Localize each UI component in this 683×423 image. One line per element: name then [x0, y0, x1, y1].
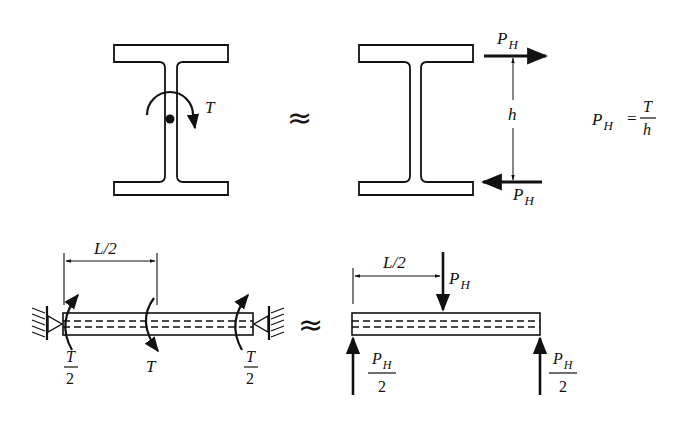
equation-lhs: PH: [591, 110, 613, 133]
left-reaction-denominator: 2: [378, 378, 386, 395]
left-reaction-numerator: PH: [371, 350, 393, 372]
mid-torque-label: T: [146, 357, 157, 376]
right-reaction-denominator: 2: [559, 378, 567, 395]
i-beam-section-with-force-couple: PH PH h: [359, 29, 546, 208]
right-torque-arrow-icon: [235, 295, 248, 350]
left-torque-denominator: 2: [66, 370, 74, 387]
point-load-label: PH: [448, 269, 470, 292]
bottom-force-label: PH: [512, 185, 534, 208]
approx-symbol-top: ≈: [287, 100, 312, 135]
mid-torque-arrow-icon: [146, 298, 158, 351]
span-label: L/2: [382, 253, 406, 272]
equation-numerator: T: [643, 98, 653, 115]
force-equation: PH = T h: [591, 98, 656, 138]
right-fixed-support-icon: [254, 306, 284, 340]
right-torque-denominator: 2: [246, 370, 254, 387]
beam-body: [63, 313, 253, 335]
torsion-equivalence-diagram: T ≈ PH PH h PH = T h: [0, 0, 683, 423]
span-label: L/2: [93, 239, 117, 258]
left-fixed-support-icon: [32, 306, 62, 340]
left-torque-arrow-icon: [65, 295, 78, 350]
right-reaction-numerator: PH: [552, 350, 574, 372]
simply-supported-beam-with-load: L/2 PH PH 2 PH 2: [352, 252, 577, 395]
equation-denominator: h: [643, 121, 651, 138]
left-torque-numerator: T: [66, 348, 76, 365]
right-torque-numerator: T: [246, 348, 256, 365]
i-beam-section-with-torque: T: [114, 45, 228, 195]
equation-equals: =: [627, 109, 637, 128]
height-label: h: [508, 105, 517, 124]
beam-body: [352, 313, 540, 335]
approx-symbol-bottom: ≈: [298, 307, 323, 342]
torque-label: T: [205, 98, 216, 117]
beam-with-applied-torques: L/2 T 2 T T 2: [32, 239, 284, 387]
top-force-label: PH: [496, 29, 518, 52]
shear-center-dot: [166, 115, 175, 124]
i-beam-outline: [359, 45, 473, 195]
